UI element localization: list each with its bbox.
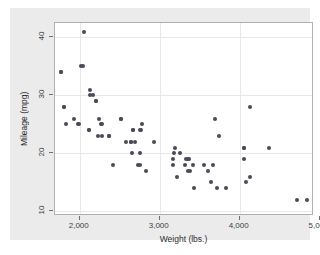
- x-axis-tick: [159, 216, 160, 220]
- scatter-point: [107, 134, 111, 138]
- scatter-point: [87, 128, 91, 132]
- gridline-horizontal: [55, 37, 312, 38]
- scatter-point: [175, 175, 179, 179]
- scatter-point: [131, 128, 135, 132]
- scatter-point: [242, 157, 246, 161]
- scatter-point: [130, 151, 134, 155]
- scatter-point: [173, 146, 177, 150]
- scatter-point: [186, 157, 190, 161]
- y-axis-tick-label: 40: [37, 32, 46, 41]
- gridline-horizontal: [55, 211, 312, 212]
- scatter-point: [267, 146, 271, 150]
- scatter-point: [88, 88, 92, 92]
- scatter-point: [248, 105, 252, 109]
- scatter-point: [202, 163, 206, 167]
- y-axis-tick: [49, 152, 53, 153]
- gridline-vertical: [160, 23, 161, 214]
- scatter-point: [81, 64, 85, 68]
- y-axis-tick: [49, 94, 53, 95]
- scatter-point: [100, 122, 104, 126]
- x-axis-tick: [239, 216, 240, 220]
- scatter-point: [72, 117, 76, 121]
- scatter-point: [183, 163, 187, 167]
- scatter-point: [178, 151, 182, 155]
- graph-region: Mileage (mpg) 2,0003,0004,0005,000102030…: [10, 8, 310, 240]
- gridline-vertical: [80, 23, 81, 214]
- scatter-point: [224, 186, 228, 190]
- gridline-vertical: [240, 23, 241, 214]
- scatter-point: [152, 140, 156, 144]
- y-axis-tick-label: 20: [37, 148, 46, 157]
- x-axis-tick-label: 5,000: [309, 221, 316, 230]
- scatter-point: [171, 157, 175, 161]
- scatter-point: [97, 117, 101, 121]
- scatter-point: [111, 163, 115, 167]
- scatter-point: [172, 151, 176, 155]
- scatter-point: [244, 180, 248, 184]
- scatter-point: [62, 105, 66, 109]
- scatter-point: [138, 151, 142, 155]
- x-axis-tick-label: 2,000: [69, 221, 89, 230]
- x-axis-tick: [79, 216, 80, 220]
- y-axis-title: Mileage (mpg): [18, 22, 30, 215]
- scatter-point: [217, 134, 221, 138]
- scatter-point: [191, 163, 195, 167]
- scatter-point: [94, 99, 98, 103]
- scatter-point: [91, 93, 95, 97]
- x-axis-title: Weight (lbs.): [54, 234, 313, 244]
- plot-region: [54, 22, 313, 215]
- scatter-point: [82, 30, 86, 34]
- scatter-point: [133, 140, 137, 144]
- scatter-point: [140, 122, 144, 126]
- y-axis-tick: [49, 210, 53, 211]
- scatter-point: [215, 186, 219, 190]
- scatter-point: [119, 117, 123, 121]
- scatter-point: [188, 169, 192, 173]
- scatter-point: [295, 198, 299, 202]
- scatter-point: [242, 146, 246, 150]
- scatter-point: [124, 140, 128, 144]
- gridline-horizontal: [55, 153, 312, 154]
- scatter-point: [192, 186, 196, 190]
- scatter-point: [144, 169, 148, 173]
- y-axis-tick-label: 30: [37, 90, 46, 99]
- scatter-point: [59, 70, 63, 74]
- y-axis-tick: [49, 36, 53, 37]
- scatter-point: [139, 128, 143, 132]
- scatter-point: [171, 163, 175, 167]
- scatter-point: [206, 169, 210, 173]
- scatter-point: [64, 122, 68, 126]
- scatter-point: [209, 180, 213, 184]
- scatter-point: [96, 134, 100, 138]
- scatter-point: [305, 198, 309, 202]
- x-axis-tick-label: 3,000: [149, 221, 169, 230]
- scatter-point: [213, 117, 217, 121]
- scatter-point: [138, 163, 142, 167]
- scatter-point: [100, 134, 104, 138]
- y-axis-tick-label: 10: [37, 206, 46, 215]
- scatter-point: [211, 163, 215, 167]
- scatter-point: [248, 175, 252, 179]
- x-axis-tick-label: 4,000: [229, 221, 249, 230]
